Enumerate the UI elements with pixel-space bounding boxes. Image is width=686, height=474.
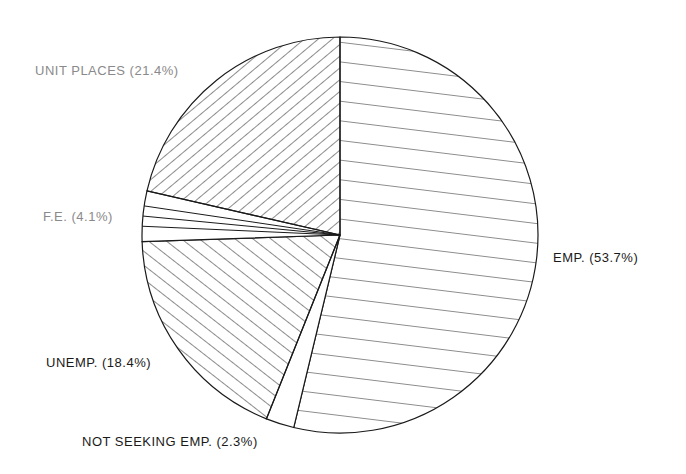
label-emp: EMP. (53.7%) — [553, 250, 638, 265]
label-not-seeking-emp: NOT SEEKING EMP. (2.3%) — [82, 434, 258, 449]
label-fe: F.E. (4.1%) — [43, 209, 113, 224]
label-unemp: UNEMP. (18.4%) — [46, 355, 151, 370]
label-unit-places: UNIT PLACES (21.4%) — [35, 63, 179, 78]
